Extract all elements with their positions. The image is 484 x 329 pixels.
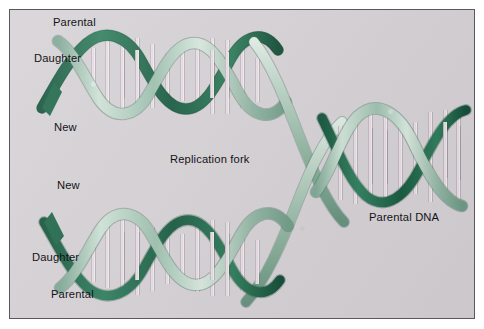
- label-parental-bottom: Parental: [51, 289, 94, 300]
- label-daughter-top: Daughter: [34, 53, 81, 64]
- illustration-panel: Parental Daughter New Replication fork N…: [9, 9, 475, 319]
- label-parental-top: Parental: [53, 17, 96, 28]
- label-new-bottom: New: [57, 180, 80, 191]
- label-daughter-bottom: Daughter: [32, 252, 79, 263]
- label-parental-dna: Parental DNA: [369, 212, 439, 223]
- figure-root: Parental Daughter New Replication fork N…: [0, 0, 484, 329]
- label-new-top: New: [54, 122, 77, 133]
- label-replication-fork: Replication fork: [170, 154, 250, 165]
